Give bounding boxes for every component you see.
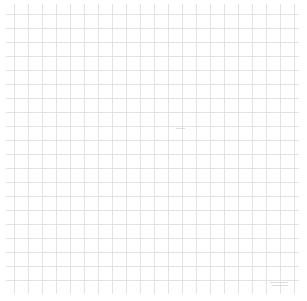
grid-canvas-app (0, 0, 307, 301)
drawing-canvas[interactable] (0, 0, 307, 301)
